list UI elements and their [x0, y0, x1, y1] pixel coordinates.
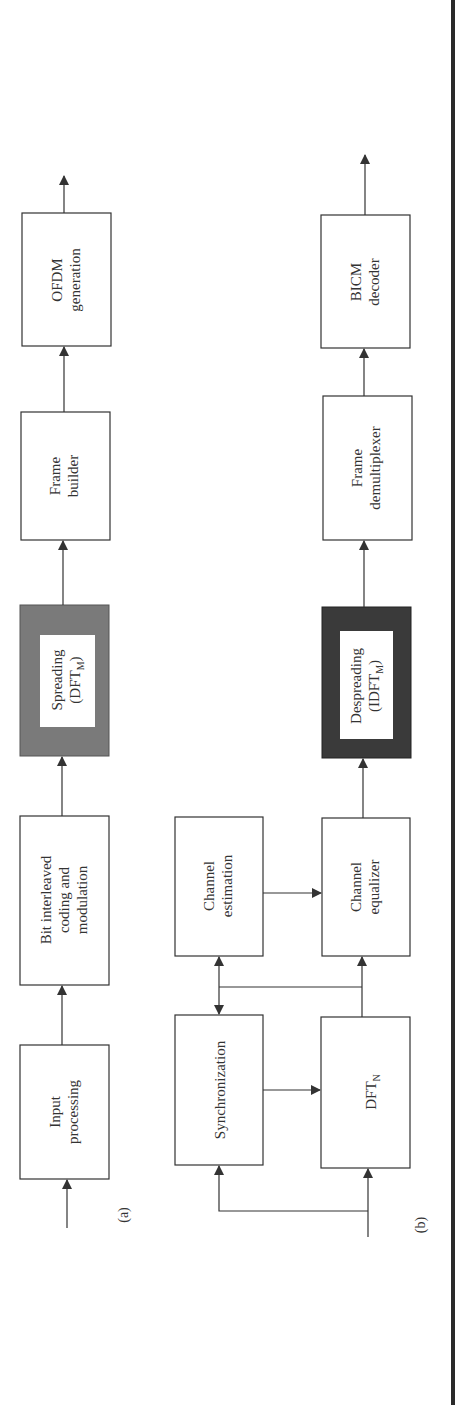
svg-text:coding and: coding and — [56, 866, 72, 933]
svg-text:Spreading: Spreading — [49, 649, 65, 710]
svg-text:Synchronization: Synchronization — [212, 1040, 228, 1139]
svg-text:Channel: Channel — [348, 862, 364, 912]
caption-b: (b) — [413, 1217, 429, 1234]
svg-text:equalizer: equalizer — [366, 860, 382, 915]
svg-text:Frame: Frame — [47, 457, 63, 496]
svg-text:Bit interleaved: Bit interleaved — [38, 855, 54, 944]
svg-text:Input: Input — [47, 1095, 63, 1127]
panel-b: Synchronization DFTN Channel estimation — [175, 155, 429, 1237]
block-synchronization: Synchronization — [175, 1015, 263, 1165]
block-spreading: Spreading (DFTM) — [20, 605, 109, 756]
block-bit-interleaved-coding: Bit interleaved coding and modulation — [20, 816, 109, 985]
block-ofdm-generation: OFDM generation — [22, 213, 111, 346]
sync-branch-arrow — [219, 1166, 368, 1211]
block-bicm-decoder: BICM decoder — [321, 215, 410, 348]
svg-text:processing: processing — [65, 1079, 81, 1144]
block-diagram: Input processing Bit interleaved coding … — [0, 0, 467, 1425]
block-despreading: Despreading (IDFTM) — [322, 607, 411, 758]
svg-text:Channel: Channel — [201, 861, 217, 911]
svg-text:BICM: BICM — [348, 263, 364, 301]
svg-text:demultiplexer: demultiplexer — [367, 426, 383, 509]
svg-text:Frame: Frame — [349, 449, 365, 488]
svg-text:estimation: estimation — [219, 854, 235, 917]
block-input-processing: Input processing — [20, 1045, 109, 1179]
svg-text:OFDM: OFDM — [49, 258, 65, 301]
svg-text:Despreading: Despreading — [348, 648, 364, 724]
svg-text:builder: builder — [65, 455, 81, 498]
svg-text:modulation: modulation — [74, 865, 90, 934]
block-channel-estimation: Channel estimation — [175, 817, 263, 956]
block-channel-equalizer: Channel equalizer — [322, 818, 410, 956]
svg-text:generation: generation — [67, 248, 83, 312]
panel-a: Input processing Bit interleaved coding … — [20, 176, 132, 1228]
block-dft-n: DFTN — [321, 1017, 410, 1168]
block-frame-builder: Frame builder — [21, 412, 110, 540]
caption-a: (a) — [116, 1207, 132, 1223]
block-frame-demultiplexer: Frame demultiplexer — [323, 396, 412, 540]
svg-text:decoder: decoder — [366, 258, 382, 305]
